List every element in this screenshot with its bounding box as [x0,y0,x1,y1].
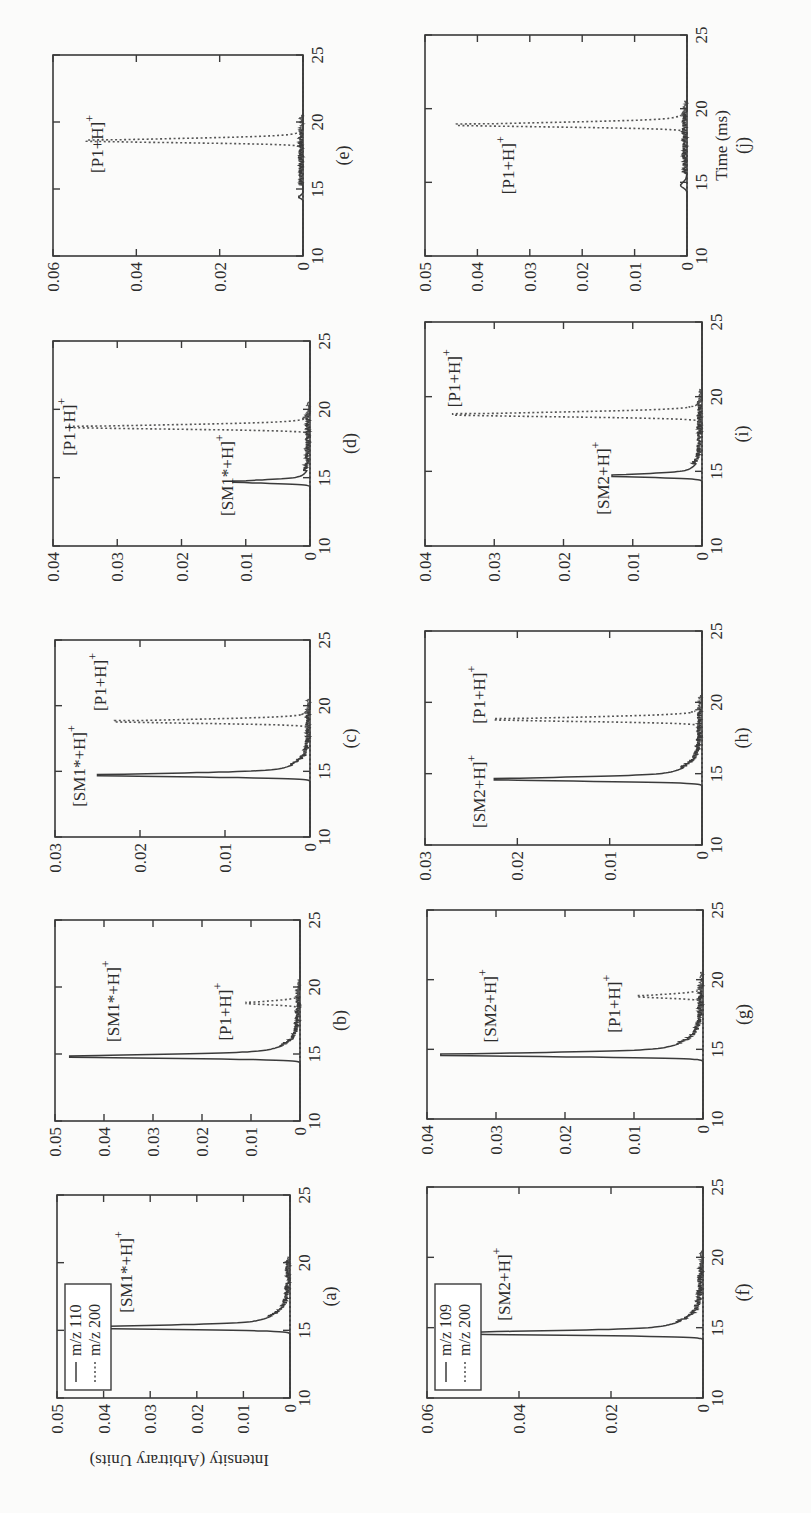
x-tick-label: 15 [707,765,726,782]
y-tick-label: 0.02 [602,1404,621,1434]
dotted-trace-m-z-200 [456,35,687,256]
y-tick-label: 0.01 [626,262,645,292]
legend-entry: m/z 110 [67,1305,84,1356]
x-tick-label: 20 [305,979,324,996]
chart-svg-a: 1015202500.010.020.030.040.05[SM1*+H]+m/… [57,1195,290,1398]
legend-entry: m/z 109 [437,1304,454,1356]
x-tick-label: 15 [315,469,334,486]
panel-label: (d) [340,433,361,454]
y-tick-label: 0.01 [242,1127,261,1157]
x-tick-label: 20 [315,401,334,418]
y-tick-label: 0.05 [46,1127,65,1157]
plot-frame [53,341,310,546]
y-tick-label: 0 [693,552,712,561]
x-tick-label: 25 [295,1187,314,1204]
panel-label: (j) [733,137,754,154]
panel-label: (g) [733,1004,754,1025]
y-tick-label: 0.01 [625,1125,644,1155]
x-tick-label: 25 [708,902,727,919]
chart-panel-a: 1015202500.010.020.030.040.05[SM1*+H]+m/… [57,1195,290,1398]
x-tick-label: 20 [708,1249,727,1266]
legend-entry: m/z 200 [86,1304,103,1356]
y-tick-label: 0.01 [216,843,235,873]
y-tick-label: 0.04 [416,552,435,582]
y-tick-label: 0.02 [193,1127,212,1157]
chromatogram-figure-grid: Intensity (Arbitrary Units) 1015202500.0… [0,0,811,1513]
y-tick-label: 0.01 [601,851,620,881]
chart-svg-f: 1015202500.020.040.06[SM2+H]+m/z 109m/z … [427,1187,703,1398]
legend: m/z 110m/z 200 [65,1284,111,1390]
y-tick-label: 0.04 [510,1404,529,1434]
x-tick-label: 25 [708,1179,727,1196]
x-tick-label: 25 [305,912,324,929]
x-tick-label: 15 [295,1322,314,1339]
y-tick-label: 0 [693,851,712,860]
y-tick-label: 0 [678,262,697,271]
plot-frame [55,920,300,1121]
dotted-trace-m-z-200 [86,55,303,256]
y-tick-label: 0.04 [468,262,487,292]
dotted-trace-m-z-200 [115,640,311,837]
solid-trace-m-z-109 [681,35,687,256]
peak-annotation: [SM2+H]+ [490,1247,514,1320]
dotted-trace-m-z-200 [637,910,703,1119]
y-tick-label: 0.06 [418,1404,437,1434]
chart-svg-h: 1015202500.010.020.03[SM2+H]+[P1+H]+(h) [425,631,702,845]
panel-label: (a) [320,1287,341,1307]
panel-label: (e) [333,146,354,166]
peak-annotation: [SM2+H]+ [465,755,489,828]
plot-frame [427,910,703,1119]
x-tick-label: 15 [708,1319,727,1336]
y-tick-label: 0.04 [418,1125,437,1155]
dotted-trace-m-z-200 [246,920,300,1121]
x-tick-label: 20 [707,694,726,711]
y-tick-label: 0.05 [48,1404,67,1434]
chart-svg-c: 1015202500.010.020.03[SM1*+H]+[P1+H]+(c) [55,640,310,837]
peak-annotation: [SM2+H]+ [589,441,613,514]
y-tick-label: 0 [281,1404,300,1413]
solid-trace-m-z-110 [98,640,311,837]
chart-svg-e: 1015202500.020.040.06[P1+H]+(e) [53,55,303,256]
x-tick-label: 25 [315,333,334,350]
peak-annotation: [P1+H]+ [494,136,518,194]
y-tick-label: 0.02 [556,1125,575,1155]
chart-panel-i: 1015202500.010.020.030.04[SM2+H]+[P1+H]+… [425,322,702,546]
y-tick-label: 0.01 [624,552,643,582]
peak-annotation: [P1+H]+ [600,974,624,1032]
peak-annotation: [SM1*+H]+ [99,960,123,1042]
peak-annotation: [SM1*+H]+ [213,434,237,516]
peak-annotation: [SM1*+H]+ [65,725,89,807]
y-tick-label: 0.03 [141,1404,160,1434]
x-tick-label: 25 [308,47,327,64]
y-tick-label: 0.03 [144,1127,163,1157]
chart-svg-j: 1015202500.010.020.030.040.05[P1+H]+(j)T… [425,35,687,256]
y-tick-label: 0.03 [416,851,435,881]
peak-annotation: [P1+H]+ [440,349,464,407]
y-tick-label: 0 [294,262,313,271]
y-tick-label: 0 [301,552,320,561]
chart-panel-g: 1015202500.010.020.030.04[SM2+H]+[P1+H]+… [427,910,703,1119]
y-tick-label: 0 [694,1125,713,1134]
peak-annotation: [P1+H]+ [86,653,110,711]
figure-page: Intensity (Arbitrary Units) 1015202500.0… [0,0,811,1513]
panel-label: (f) [733,1284,754,1302]
y-tick-label: 0 [301,843,320,852]
x-tick-label: 15 [708,1041,727,1058]
chart-svg-i: 1015202500.010.020.030.04[SM2+H]+[P1+H]+… [425,322,702,546]
peak-annotation: [P1+H]+ [55,398,79,456]
y-tick-label: 0.02 [211,262,230,292]
y-tick-label: 0.03 [487,1125,506,1155]
y-tick-label: 0.04 [95,1127,114,1157]
y-tick-label: 0.02 [508,851,527,881]
x-tick-label: 25 [315,632,334,649]
chart-panel-e: 1015202500.020.040.06[P1+H]+(e) [53,55,303,256]
y-tick-label: 0.01 [234,1404,253,1434]
plot-frame [425,631,702,845]
solid-trace-m-z-109 [494,631,702,845]
x-tick-label: 20 [295,1254,314,1271]
y-tick-label: 0 [291,1127,310,1136]
x-tick-label: 20 [315,697,334,714]
x-tick-label: 20 [692,100,711,117]
y-tick-label: 0.03 [521,262,540,292]
x-tick-label: 20 [707,388,726,405]
